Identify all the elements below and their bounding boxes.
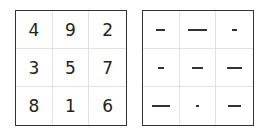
number-cell: 4 [16,11,53,49]
bar-cell [143,49,180,87]
length-bar [188,29,208,31]
bar-cell [180,87,217,125]
length-bar [158,67,165,69]
number-cell: 3 [16,49,53,87]
bar-square-grid [142,10,254,126]
number-cell: 2 [89,11,126,49]
number-cell: 9 [53,11,90,49]
number-cell: 7 [89,49,126,87]
length-bar [156,29,165,31]
bar-cell [180,49,217,87]
length-bar [196,105,198,107]
bar-cell [180,11,217,49]
length-bar [232,29,236,31]
length-bar [228,105,241,107]
magic-square-grid: 4 9 2 3 5 7 8 1 6 [15,10,127,126]
length-bar [227,67,242,69]
number-cell: 8 [16,87,53,125]
bar-cell [216,11,253,49]
bar-cell [143,87,180,125]
number-cell: 5 [53,49,90,87]
length-bar [192,67,203,69]
length-bar [152,105,170,107]
bar-cell [216,87,253,125]
bar-cell [143,11,180,49]
number-cell: 1 [53,87,90,125]
bar-cell [216,49,253,87]
number-cell: 6 [89,87,126,125]
